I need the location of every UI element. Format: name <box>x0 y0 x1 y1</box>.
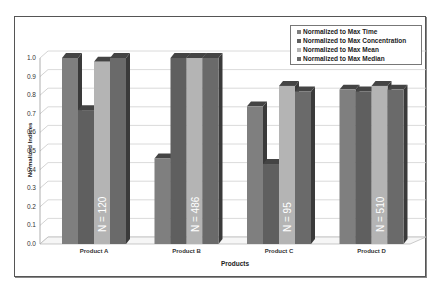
bar-side <box>219 53 223 244</box>
bar <box>295 91 311 244</box>
legend-item: Normalized to Max Concentration <box>291 36 421 45</box>
y-tick-label: 0.7 <box>20 110 36 117</box>
legend-swatch <box>297 30 301 34</box>
gridline-side <box>40 107 48 114</box>
x-tick-label: Product B <box>157 248 217 254</box>
y-tick-label: 0.9 <box>20 73 36 80</box>
bar <box>247 106 263 244</box>
bar <box>263 164 279 244</box>
legend: Normalized to Max Time Normalized to Max… <box>290 25 422 65</box>
legend-swatch <box>297 57 301 61</box>
bar <box>388 90 404 244</box>
x-tick-label: Product D <box>342 248 402 254</box>
bar-side <box>311 87 315 244</box>
y-tick-label: 0.3 <box>20 184 36 191</box>
bar <box>62 58 78 244</box>
legend-label: Normalized to Max Median <box>303 55 385 62</box>
gridline-side <box>40 218 48 225</box>
y-axis-label: Normalized Indices <box>27 123 33 178</box>
bar-side <box>404 85 408 244</box>
gridline-side <box>40 163 48 170</box>
legend-swatch <box>297 39 301 43</box>
gridline-side <box>40 125 48 132</box>
bar-side <box>126 53 130 244</box>
gridline-side <box>40 181 48 188</box>
sample-size-label: N = 95 <box>282 202 293 232</box>
legend-label: Normalized to Max Time <box>303 28 377 35</box>
gridline-side <box>40 70 48 77</box>
gridline-side <box>40 88 48 95</box>
bar <box>78 110 94 244</box>
bar <box>356 91 372 244</box>
sample-size-label: N = 120 <box>97 197 108 232</box>
y-tick-label: 0.0 <box>20 240 36 247</box>
bar <box>155 158 171 244</box>
bar <box>110 58 126 244</box>
legend-label: Normalized to Max Mean <box>303 46 379 53</box>
gridline-side <box>40 144 48 151</box>
bar <box>203 58 219 244</box>
legend-item: Normalized to Max Mean <box>291 45 421 54</box>
x-axis-label: Products <box>205 260 265 267</box>
bar <box>171 58 187 244</box>
sample-size-label: N = 486 <box>190 197 201 232</box>
gridline-side <box>40 51 48 58</box>
x-tick-label: Product A <box>64 248 124 254</box>
legend-item: Normalized to Max Time <box>291 27 421 36</box>
bar <box>340 90 356 244</box>
legend-item: Normalized to Max Median <box>291 54 421 63</box>
y-tick-label: 0.8 <box>20 91 36 98</box>
y-tick-label: 0.2 <box>20 203 36 210</box>
y-tick-label: 0.1 <box>20 221 36 228</box>
y-tick-label: 1.0 <box>20 54 36 61</box>
gridline-side <box>40 200 48 207</box>
x-tick-label: Product C <box>249 248 309 254</box>
legend-label: Normalized to Max Concentration <box>303 37 406 44</box>
sample-size-label: N = 510 <box>375 197 386 232</box>
legend-swatch <box>297 48 301 52</box>
